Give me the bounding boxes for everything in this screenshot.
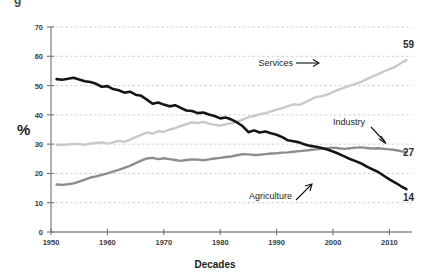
series-line-services xyxy=(57,60,407,145)
y-tick-label: 40 xyxy=(35,111,43,120)
gridlines-group xyxy=(51,27,412,203)
y-tick-label: 70 xyxy=(35,23,43,32)
y-tick-label: 0 xyxy=(39,228,43,237)
annotation-industry-label: Industry xyxy=(333,117,366,127)
x-tick-labels: 1950196019701980199020002010 xyxy=(43,238,398,247)
annotation-services-label: Services xyxy=(258,58,293,68)
y-tick-label: 30 xyxy=(35,140,43,149)
y-axis-title: % xyxy=(17,121,30,138)
y-tick-label: 10 xyxy=(35,199,43,208)
x-tick-label: 1960 xyxy=(99,238,116,247)
y-tick-label: 60 xyxy=(35,52,43,61)
agriculture-arrow-icon xyxy=(296,185,311,200)
annotation-agriculture-label: Agriculture xyxy=(249,191,292,201)
y-tick-label: 20 xyxy=(35,169,43,178)
x-tick-label: 2010 xyxy=(381,238,398,247)
y-tick-label: 50 xyxy=(35,82,43,91)
partial-top-text: g xyxy=(14,0,22,7)
end-value-services: 59 xyxy=(403,39,415,50)
x-tick-label: 1980 xyxy=(212,238,229,247)
x-axis-title: Decades xyxy=(194,259,236,270)
line-chart: 010203040506070 195019601970198019902000… xyxy=(0,0,424,273)
end-value-industry: 27 xyxy=(403,147,415,158)
end-value-agriculture: 14 xyxy=(403,192,415,203)
chart-container: g 010203040506070 1950196019701980199020… xyxy=(0,0,424,273)
series-line-industry xyxy=(57,147,407,184)
y-tick-labels: 010203040506070 xyxy=(35,23,43,237)
x-tick-label: 1990 xyxy=(268,238,285,247)
x-tick-label: 1950 xyxy=(43,238,60,247)
x-tick-label: 1970 xyxy=(155,238,172,247)
x-tick-label: 2000 xyxy=(325,238,342,247)
